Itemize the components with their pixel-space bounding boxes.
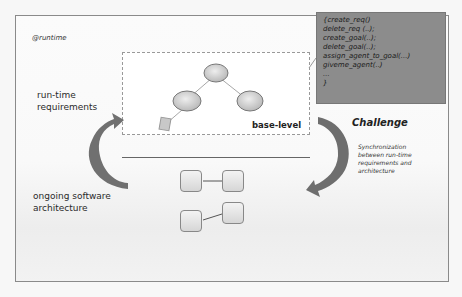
challenge-description: Synchronization between run-time require… <box>358 143 443 175</box>
code-line: ... <box>323 70 439 79</box>
tree-leaf-node <box>159 117 171 131</box>
description-line: architecture <box>358 167 443 175</box>
code-line: create_goal(..); <box>323 34 439 43</box>
code-line: delete_goal(..); <box>323 43 439 52</box>
label-line: ongoing software <box>33 190 111 202</box>
tree-root-node <box>204 64 228 82</box>
code-line: delete_req (..); <box>323 25 439 34</box>
code-line: } <box>323 79 439 88</box>
label-line: run-time <box>37 89 97 101</box>
architecture-connectors <box>203 181 222 220</box>
code-connector <box>309 58 316 68</box>
architecture-component <box>180 210 202 232</box>
description-line: Synchronization <box>358 143 443 151</box>
runtime-requirements-label: run-time requirements <box>37 89 97 113</box>
architecture-component <box>222 202 244 224</box>
code-line: giveme_agent(..) <box>323 61 439 70</box>
code-line: {create_req() <box>323 16 439 25</box>
ongoing-architecture-label: ongoing software architecture <box>33 190 111 214</box>
label-line: requirements <box>37 101 97 113</box>
label-line: architecture <box>33 202 111 214</box>
code-line: assign_agent_to_goal(...) <box>323 52 439 61</box>
base-level-label: base-level <box>252 120 301 130</box>
description-line: requirements and <box>358 159 443 167</box>
left-curved-arrow-icon <box>89 113 128 189</box>
architecture-component <box>222 170 244 192</box>
tree-left-node <box>173 91 201 111</box>
code-panel: {create_req() delete_req (..); create_go… <box>316 12 446 104</box>
right-curved-arrow-icon <box>306 117 349 197</box>
architecture-component <box>180 170 202 192</box>
description-line: between run-time <box>358 151 443 159</box>
challenge-title: Challenge <box>352 117 408 128</box>
tree-right-node <box>237 91 263 111</box>
level-divider <box>122 157 310 158</box>
